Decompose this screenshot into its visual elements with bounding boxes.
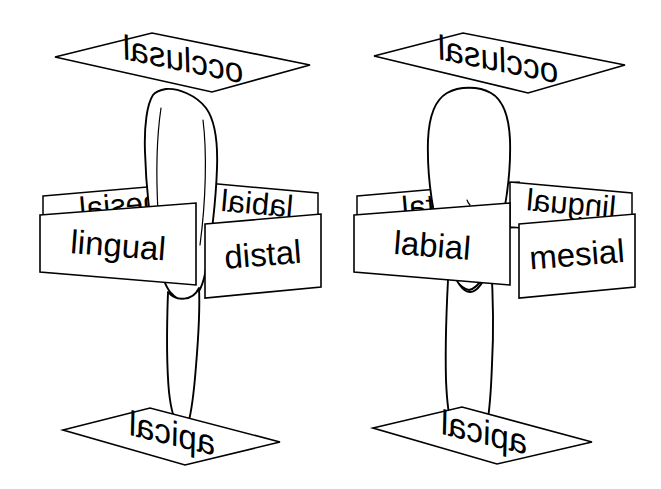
right-front-left-plate-label: labial	[392, 224, 472, 267]
left-occlusal-plane: occlusal	[55, 28, 310, 92]
right-front-right-plate-label: mesial	[528, 232, 626, 276]
right-occlusal-plane: occlusal	[374, 28, 625, 93]
left-front-left-plate-label: lingual	[69, 223, 167, 267]
left-front-plates: lingual distal	[40, 203, 321, 298]
figure-canvas: occlusal mesial labial lingual distal	[0, 0, 661, 489]
right-diagram: occlusal distal lingual labial mesial ap…	[354, 28, 635, 464]
right-front-plates: labial mesial	[354, 203, 635, 298]
left-diagram: occlusal mesial labial lingual distal	[40, 28, 321, 465]
right-apical-plane: apical	[373, 402, 592, 464]
tooth-orientation-diagram: occlusal mesial labial lingual distal	[0, 0, 661, 489]
left-apical-plane: apical	[63, 403, 280, 465]
left-front-right-plate-label: distal	[223, 233, 303, 276]
